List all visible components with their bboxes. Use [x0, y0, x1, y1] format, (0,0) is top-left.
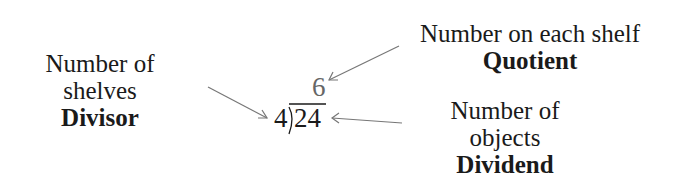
division-bracket — [289, 104, 326, 134]
arrow-to-divisor — [208, 87, 267, 118]
arrow-to-dividend — [332, 113, 402, 123]
arrow-to-quotient — [329, 46, 399, 80]
arrows-and-bracket — [0, 0, 690, 175]
long-division-diagram: Number of shelves Divisor Number on each… — [0, 0, 690, 175]
